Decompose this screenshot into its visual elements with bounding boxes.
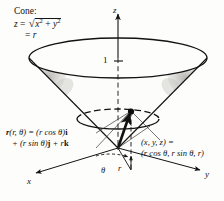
basis-vector-i: i — [65, 127, 67, 137]
vector-equation-sin-term: + (r sin θ) — [12, 138, 48, 148]
x-axis-label: x — [27, 177, 31, 187]
cone-equation-equals: = — [20, 19, 25, 29]
vector-equation-line-2: + (r sin θ)j + rk — [6, 139, 69, 148]
y-axis-label: y — [205, 170, 209, 180]
cone-equation-line-2: = r — [14, 30, 61, 40]
radical-vinculum — [35, 18, 62, 19]
vector-equation-arguments: (r, θ) = (r cos θ) — [9, 127, 65, 137]
square-root-group: √x2 + y2 — [28, 17, 62, 30]
vector-equation-label: r(r, θ) = (r cos θ)i + (r sin θ)j + rk — [6, 128, 69, 149]
cone-equation-line-1: z = √x2 + y2 — [14, 17, 61, 30]
z-axis-tick-label-1: 1 — [103, 56, 108, 66]
point-coordinates-label: (x, y, z) = (r cos θ, r sin θ, r) — [141, 138, 204, 159]
point-coordinates-line-2: (r cos θ, r sin θ, r) — [141, 149, 204, 158]
point-coordinates-line-1: (x, y, z) = — [141, 138, 204, 147]
theta-angle-label: θ — [101, 166, 105, 175]
vector-equation-line-1: r(r, θ) = (r cos θ)i — [6, 128, 69, 137]
x-axis — [36, 148, 118, 173]
radicand-plus: + — [45, 19, 50, 29]
radius-label: r — [118, 164, 121, 173]
cone-caption-heading: Cone: — [14, 6, 61, 16]
basis-vector-k: k — [64, 138, 69, 148]
z-axis-label: z — [113, 6, 117, 16]
radicand: x2 + y2 — [35, 19, 62, 29]
point-marker — [128, 108, 134, 114]
cone-equation-r-value: r — [33, 30, 37, 40]
cone-equation-lhs: z — [14, 19, 18, 29]
vector-equation-rk-term: + r — [50, 138, 63, 148]
cone-equation-second-equals: = — [25, 30, 30, 40]
cone-parametrization-figure: Cone: z = √x2 + y2 = r z x y 1 θ r r(r, … — [0, 0, 224, 201]
cone-caption: Cone: z = √x2 + y2 = r — [14, 6, 61, 41]
radical-sign: √ — [29, 17, 35, 29]
